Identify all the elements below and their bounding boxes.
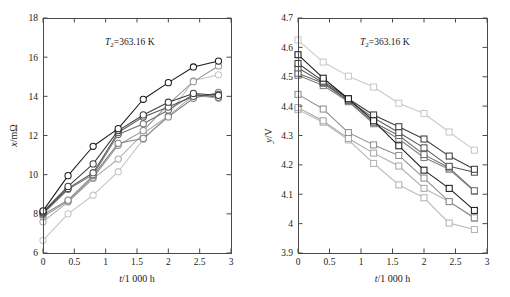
y-tick-label: 16 — [29, 53, 39, 63]
y-tick-label: 12 — [29, 131, 39, 141]
data-point-marker — [115, 169, 121, 175]
data-point-marker — [65, 183, 71, 189]
y-tick-label: 10 — [29, 170, 39, 180]
data-point-marker — [65, 211, 71, 217]
data-point-marker — [140, 112, 146, 118]
x-tick-label: 0 — [41, 257, 46, 267]
data-point-marker — [396, 143, 402, 149]
data-point-marker — [396, 130, 402, 136]
data-point-marker — [471, 215, 477, 221]
data-point-marker — [345, 135, 351, 141]
data-point-marker — [421, 145, 427, 151]
x-tick-label: 1 — [103, 257, 108, 267]
data-point-marker — [165, 80, 171, 86]
data-point-marker — [446, 185, 452, 191]
series-group — [295, 37, 477, 232]
x-tick-label: 2.5 — [450, 257, 462, 267]
y-tick-label: 4.1 — [281, 190, 293, 200]
y-tick-label: 8 — [33, 209, 38, 219]
data-point-marker — [90, 170, 96, 176]
data-point-marker — [320, 118, 326, 124]
data-point-marker — [140, 121, 146, 127]
data-point-marker — [140, 135, 146, 141]
data-point-marker — [320, 75, 326, 81]
data-point-marker — [215, 92, 221, 98]
data-point-marker — [371, 84, 377, 90]
data-point-marker — [446, 163, 452, 169]
chart-panel-left: 00.511.522.53681012141618t/1 000 hx/mΩT2… — [0, 0, 255, 297]
annotation-value: =363.16 K — [114, 37, 155, 47]
data-point-marker — [345, 96, 351, 102]
data-point-marker — [471, 147, 477, 153]
x-tick-label: 3 — [485, 257, 490, 267]
chart-svg-left: 00.511.522.53681012141618t/1 000 hx/mΩT2… — [0, 0, 255, 297]
y-tick-label: 4.2 — [281, 160, 293, 170]
data-point-marker — [140, 96, 146, 102]
data-point-marker — [471, 166, 477, 172]
data-point-marker — [471, 207, 477, 213]
data-point-marker — [371, 160, 377, 166]
data-point-marker — [90, 143, 96, 149]
data-point-marker — [396, 152, 402, 158]
data-point-marker — [471, 188, 477, 194]
data-point-marker — [320, 59, 326, 65]
data-point-marker — [446, 129, 452, 135]
data-point-marker — [446, 220, 452, 226]
data-point-marker — [140, 128, 146, 134]
data-point-marker — [421, 152, 427, 158]
series-line — [43, 92, 218, 214]
data-point-marker — [421, 185, 427, 191]
y-axis-title-units: /mΩ — [8, 124, 19, 142]
data-point-marker — [371, 150, 377, 156]
data-point-marker — [320, 106, 326, 112]
x-axis-title: t/1 000 h — [375, 273, 411, 284]
x-tick-label: 2 — [422, 257, 427, 267]
data-series — [40, 92, 222, 225]
y-tick-label: 4.4 — [281, 102, 293, 112]
data-point-marker — [65, 173, 71, 179]
data-point-marker — [215, 58, 221, 64]
y-axis-title: y/V — [263, 127, 274, 143]
temperature-annotation: T2=363.16 K — [360, 37, 410, 49]
axis-ticks: 00.511.522.533.944.14.24.34.44.54.64.7 — [281, 13, 490, 267]
data-series — [40, 90, 222, 215]
data-point-marker — [396, 124, 402, 130]
data-point-marker — [446, 199, 452, 205]
data-point-marker — [396, 163, 402, 169]
data-point-marker — [396, 182, 402, 188]
data-point-marker — [471, 227, 477, 233]
data-point-marker — [190, 64, 196, 70]
data-series — [40, 89, 222, 218]
series-line — [43, 93, 218, 211]
data-point-marker — [90, 192, 96, 198]
series-line — [43, 94, 218, 212]
data-point-marker — [421, 195, 427, 201]
data-point-marker — [421, 110, 427, 116]
x-tick-label: 0.5 — [68, 257, 80, 267]
x-tick-label: 1.5 — [387, 257, 399, 267]
data-point-marker — [446, 153, 452, 159]
data-point-marker — [371, 112, 377, 118]
chart-panel-right: 00.511.522.533.944.14.24.34.44.54.64.7t/… — [255, 0, 510, 297]
x-axis-title: t/1 000 h — [119, 273, 155, 284]
series-line — [43, 94, 218, 213]
series-group — [40, 58, 222, 243]
data-point-marker — [421, 136, 427, 142]
data-series — [295, 37, 477, 153]
x-axis-title-units: /1 000 h — [122, 273, 155, 284]
y-axis-title-units: /V — [263, 127, 274, 138]
data-point-marker — [190, 90, 196, 96]
x-tick-label: 1.5 — [131, 257, 143, 267]
data-point-marker — [345, 130, 351, 136]
y-tick-label: 6 — [33, 248, 38, 258]
x-axis-title-units: /1 000 h — [378, 273, 411, 284]
x-tick-label: 1 — [359, 257, 364, 267]
data-point-marker — [190, 79, 196, 85]
data-point-marker — [396, 100, 402, 106]
y-tick-label: 3.9 — [281, 248, 293, 258]
data-point-marker — [165, 99, 171, 105]
y-tick-label: 18 — [29, 13, 39, 23]
data-point-marker — [115, 156, 121, 162]
data-point-marker — [421, 167, 427, 173]
data-point-marker — [345, 73, 351, 79]
